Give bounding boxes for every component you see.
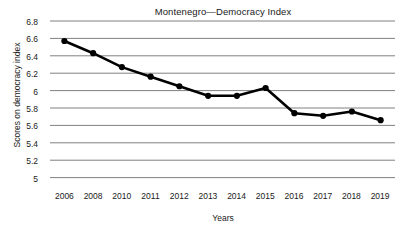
series-markers xyxy=(61,38,383,123)
democracy-index-line-chart: Montenegro—Democracy Index Scores on dem… xyxy=(0,0,406,241)
data-point xyxy=(148,74,154,80)
data-point xyxy=(378,117,384,123)
data-point xyxy=(90,50,96,56)
data-series-democracy-index xyxy=(61,38,383,123)
gridlines xyxy=(50,21,395,178)
data-point xyxy=(176,83,182,89)
data-point xyxy=(61,38,67,44)
data-point xyxy=(291,110,297,116)
data-point xyxy=(234,93,240,99)
data-point xyxy=(349,108,355,114)
data-point xyxy=(320,113,326,119)
x-axis-title: Years xyxy=(50,213,396,223)
data-point xyxy=(205,93,211,99)
plot-area xyxy=(0,0,406,241)
data-point xyxy=(263,85,269,91)
data-point xyxy=(119,64,125,70)
x-tick-label: 2019 xyxy=(360,192,400,201)
